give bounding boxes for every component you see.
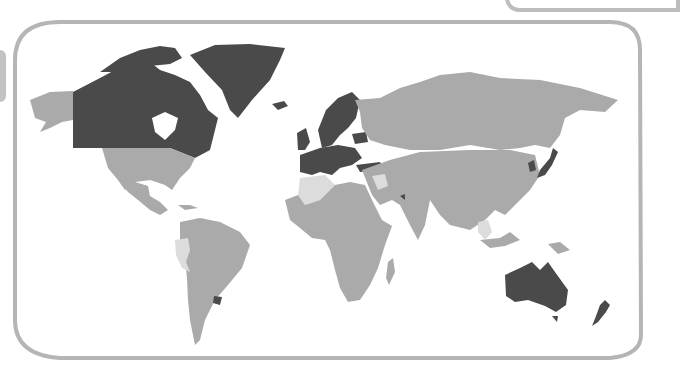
world-map — [0, 0, 666, 383]
